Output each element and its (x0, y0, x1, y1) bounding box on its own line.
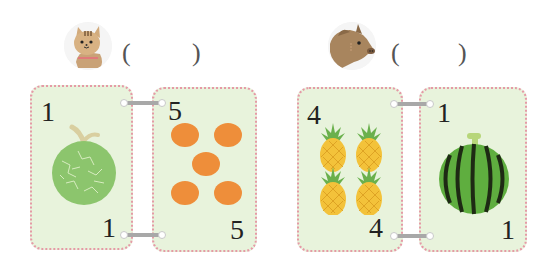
left-answer-close-paren: ) (192, 40, 201, 66)
pineapple-icon (320, 123, 346, 172)
card-bottom-number: 5 (230, 216, 244, 244)
boar-icon (328, 22, 376, 70)
card-top-number: 5 (168, 97, 182, 125)
right-answer-close-paren: ) (458, 40, 467, 66)
right-answer-field[interactable] (402, 38, 452, 68)
card-top-number: 1 (437, 99, 451, 127)
ring-hole (158, 99, 166, 107)
melon-icon (50, 121, 120, 211)
card-pineapples[interactable]: 4 4 (297, 87, 403, 252)
orange-icon (214, 123, 242, 147)
left-answer-open-paren: ( (122, 40, 131, 66)
boar-avatar (328, 22, 376, 70)
right-answer-open-paren: ( (391, 40, 400, 66)
ring-hole (390, 232, 398, 240)
orange-icon (214, 181, 242, 205)
cat-avatar (64, 22, 112, 70)
orange-icon (192, 152, 220, 176)
orange-icon (171, 123, 199, 147)
card-oranges[interactable]: 5 5 (152, 87, 257, 252)
ring-hole (120, 99, 128, 107)
card-bottom-number: 4 (369, 214, 383, 242)
orange-icon (171, 181, 199, 205)
pineapple-icon (320, 167, 346, 215)
cat-icon (64, 22, 112, 70)
card-melon[interactable]: 1 1 (30, 85, 133, 250)
watermelon-icon (435, 133, 513, 215)
ring-hole (390, 100, 398, 108)
ring-hole (120, 231, 128, 239)
ring-hole (158, 231, 166, 239)
card-watermelon[interactable]: 1 1 (419, 87, 527, 252)
ring-hole (426, 232, 434, 240)
pineapple-icon (356, 123, 382, 172)
left-answer-field[interactable] (134, 38, 184, 68)
pineapple-group-icon (319, 123, 389, 215)
pineapple-icon (356, 167, 382, 215)
ring-hole (426, 100, 434, 108)
card-bottom-number: 1 (501, 216, 515, 244)
card-bottom-number: 1 (102, 214, 116, 242)
